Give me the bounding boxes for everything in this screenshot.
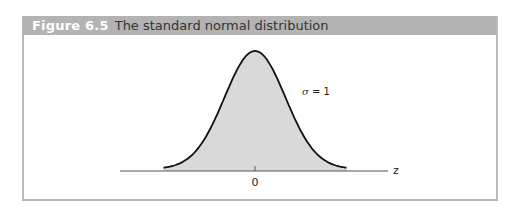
normal-distribution-chart: σ = 1 0 z <box>0 0 514 208</box>
sigma-annotation: σ = 1 <box>302 86 330 97</box>
x-axis-label: z <box>393 164 399 177</box>
tick-label-zero: 0 <box>252 176 259 189</box>
curve-area <box>164 51 347 171</box>
